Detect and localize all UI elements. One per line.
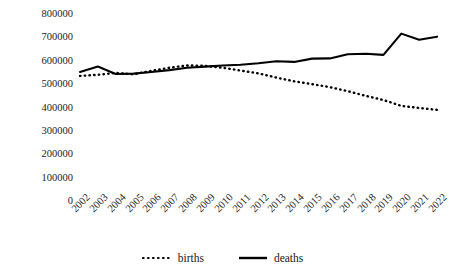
dotted-line-swatch: [142, 254, 172, 262]
legend-label-births: births: [178, 253, 204, 265]
chart-legend: births deaths: [0, 253, 445, 265]
series-line-births: [80, 65, 437, 109]
series-line-deaths: [80, 34, 437, 74]
legend-item-deaths[interactable]: deaths: [238, 253, 303, 265]
solid-line-swatch: [238, 254, 268, 262]
legend-label-deaths: deaths: [274, 253, 303, 265]
legend-item-births[interactable]: births: [142, 253, 204, 265]
